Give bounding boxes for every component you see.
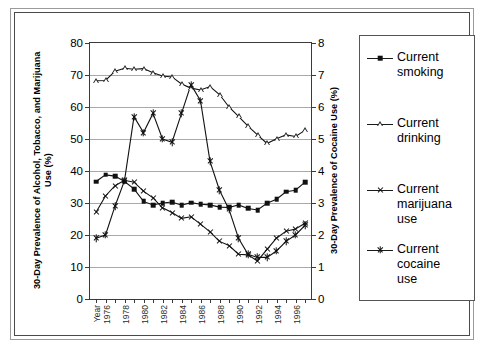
x-axis-tick: [182, 299, 183, 303]
x-axis-tick: [163, 299, 164, 303]
y-axis-tick-right: [311, 139, 316, 140]
marker-filled-square-icon: [246, 206, 251, 211]
marker-filled-square-icon: [103, 173, 108, 178]
marker-star-icon: [102, 231, 109, 238]
marker-filled-square-icon: [217, 205, 222, 210]
y-axis-title-right-text: 30-Day Prevalence of Cocaine Use (%): [329, 87, 340, 254]
legend-key: [367, 244, 393, 258]
x-axis-tick: [125, 299, 126, 303]
marker-open-triangle-icon: [198, 87, 204, 92]
triangle-inner: [208, 86, 212, 89]
x-axis-tick-label: 1984: [178, 305, 188, 324]
marker-star-icon: [301, 222, 308, 229]
marker-filled-square-icon: [170, 200, 175, 205]
marker-star-icon: [178, 110, 185, 117]
x-axis-tick-label: 1996: [292, 305, 302, 324]
x-axis-tick: [134, 299, 135, 303]
x-axis-tick: [201, 299, 202, 303]
legend-item-label: Current smoking: [397, 50, 444, 80]
y-axis-tick-right: [311, 107, 316, 108]
marker-x-icon: [283, 228, 290, 235]
marker-x-icon: [140, 188, 147, 195]
y-axis-title-left-text: 30-Day Prevalence of Alcohol, Tobacco, a…: [32, 42, 54, 298]
triangle-inner: [237, 115, 241, 118]
legend-item-current-drinking[interactable]: Current drinking: [367, 116, 441, 146]
triangle-inner: [275, 138, 279, 141]
marker-x-icon: [93, 209, 100, 216]
y-axis-tick-right: [311, 75, 316, 76]
series-line-current-drinking: [96, 68, 305, 143]
marker-x-icon: [207, 228, 214, 235]
screenshot-root: 30-Day Prevalence of Alcohol, Tobacco, a…: [0, 0, 493, 354]
x-axis-tick: [229, 299, 230, 303]
triangle-inner: [303, 129, 307, 132]
marker-x-icon: [178, 215, 185, 222]
legend-item-current-smoking[interactable]: Current smoking: [367, 50, 444, 80]
marker-open-triangle-icon: [160, 73, 166, 78]
y-axis-tick-left: [85, 299, 90, 300]
y-axis-tick-label-left: 70: [70, 69, 83, 81]
marker-x-icon: [112, 182, 119, 189]
figure-frame: 30-Day Prevalence of Alcohol, Tobacco, a…: [14, 12, 470, 336]
y-axis-tick-label-right: 5: [318, 133, 324, 145]
marker-filled-square-icon: [198, 202, 203, 207]
marker-filled-square-icon: [208, 203, 213, 208]
y-axis-title-right: 30-Day Prevalence of Cocaine Use (%): [327, 42, 343, 298]
chart: 30-Day Prevalence of Alcohol, Tobacco, a…: [33, 27, 333, 343]
x-axis-tick-label: 1992: [254, 305, 264, 324]
x-axis-tick-label: 1982: [159, 305, 169, 324]
x-axis-tick-label: 1990: [235, 305, 245, 324]
marker-open-triangle-icon: [283, 132, 289, 137]
marker-filled-square-icon: [141, 199, 146, 204]
series-lines: [90, 43, 311, 299]
marker-filled-square-icon: [189, 200, 194, 205]
x-axis-tick: [296, 299, 297, 303]
legend-key: [367, 52, 393, 66]
marker-open-triangle-icon: [141, 66, 147, 71]
legend-item-current-cocaine-use[interactable]: Current cocaine use: [367, 242, 440, 286]
y-axis-tick-label-left: 60: [70, 101, 83, 113]
triangle-inner: [132, 68, 136, 71]
legend-item-current-marijuana-use[interactable]: Current marijuana use: [367, 182, 452, 226]
marker-star-icon: [254, 254, 261, 261]
y-axis-title-left: 30-Day Prevalence of Alcohol, Tobacco, a…: [35, 42, 51, 298]
marker-open-triangle-icon: [274, 136, 280, 141]
y-axis-tick-label-right: 4: [318, 165, 324, 177]
x-axis-tick: [115, 299, 116, 303]
legend-item-label: Current drinking: [397, 116, 441, 146]
x-axis-tick-label: 1994: [273, 305, 283, 324]
y-axis-tick-right: [311, 203, 316, 204]
marker-star-icon: [273, 247, 280, 254]
legend-item-label: Current cocaine use: [397, 242, 440, 286]
x-axis-tick: [286, 299, 287, 303]
x-axis-tick-label: 1986: [197, 305, 207, 324]
y-axis-tick-label-left: 10: [70, 261, 83, 273]
triangle-inner: [104, 80, 108, 83]
legend-key: [367, 118, 393, 132]
marker-open-triangle-icon: [217, 92, 223, 97]
triangle-inner: [113, 70, 117, 73]
marker-open-triangle-icon: [131, 66, 137, 71]
x-axis-tick-label: 1980: [140, 305, 150, 324]
y-axis-tick-label-right: 3: [318, 197, 324, 209]
marker-filled-square-icon: [284, 190, 289, 195]
x-axis-tick: [153, 299, 154, 303]
triangle-inner: [294, 136, 298, 139]
y-axis-tick-label-left: 30: [70, 197, 83, 209]
triangle-inner: [170, 76, 174, 79]
x-axis-tick: [258, 299, 259, 303]
marker-star-icon: [168, 138, 175, 145]
marker-star-icon: [225, 206, 232, 213]
y-axis-tick-label-left: 20: [70, 229, 83, 241]
marker-star-icon: [206, 158, 213, 165]
marker-star-icon: [216, 186, 223, 193]
triangle-inner: [199, 89, 203, 92]
marker-filled-square-icon: [255, 208, 260, 213]
marker-x-icon: [226, 242, 233, 249]
y-axis-tick-label-left: 40: [70, 165, 83, 177]
triangle-inner: [142, 68, 146, 71]
marker-x-icon: [159, 204, 166, 211]
filled-square-icon: [378, 56, 383, 61]
marker-star-icon: [149, 110, 156, 117]
marker-star-icon: [244, 250, 251, 257]
